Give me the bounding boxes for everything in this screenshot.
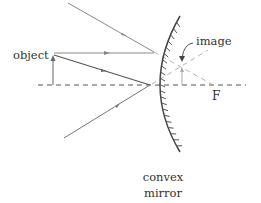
ray-reflected-bottom-arrow	[115, 103, 120, 108]
object-label: object	[13, 48, 49, 62]
hatch-mark	[171, 35, 175, 39]
hatch-mark	[164, 53, 168, 57]
ray-incident-top-arrow	[121, 33, 127, 36]
hatch-mark	[161, 72, 166, 75]
focal-point-label: F	[212, 89, 220, 103]
mirror-label-line2: mirror	[144, 186, 183, 200]
image-arrow-head	[180, 67, 184, 72]
ray-incident-top	[68, 3, 154, 52]
hatch-mark	[160, 78, 165, 81]
hatch-mark	[177, 22, 180, 27]
hatch-mark	[173, 29, 176, 33]
hatch-mark	[166, 47, 170, 51]
hatch-mark	[161, 66, 166, 69]
mirror-label-line1: convex	[143, 170, 184, 184]
image-pointer-head	[179, 56, 185, 62]
hatch-mark	[168, 41, 172, 45]
image-pointer	[182, 43, 193, 58]
object-arrow-head	[51, 55, 56, 61]
ray-diagram: object image F convex mirror	[0, 0, 261, 203]
convex-mirror	[160, 16, 180, 152]
ray-parallel-arrow	[104, 51, 110, 55]
hatch-mark	[163, 60, 167, 63]
hatch-mark	[168, 128, 174, 129]
image-label: image	[196, 34, 232, 48]
mirror-hatching	[160, 22, 182, 146]
ray-reflected-bottom	[64, 85, 150, 138]
